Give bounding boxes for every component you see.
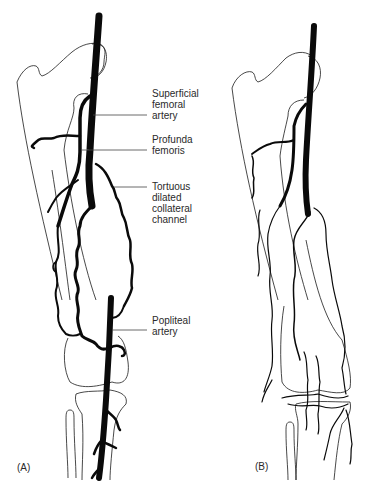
label-line: femoral [152, 99, 199, 110]
femoral-artery-diagram [0, 0, 367, 490]
profunda-branch-b1 [252, 140, 294, 154]
panel-b-drawing [232, 26, 352, 480]
label-line: Tortuous [152, 181, 192, 192]
label-line: dilated [152, 192, 192, 203]
popliteal-collateral-link-a [112, 306, 124, 318]
superficial-femoral-artery-a [89, 16, 99, 206]
panel-label-b: (B) [255, 461, 268, 472]
label-line: artery [152, 110, 199, 121]
tibia-b [295, 402, 350, 481]
label-popliteal-artery: Popliteal artery [152, 315, 190, 337]
label-line: Profunda [152, 134, 193, 145]
tibial-collateral-b [324, 408, 352, 464]
label-line: artery [152, 326, 190, 337]
panel-a-drawing [17, 16, 147, 480]
profunda-branch-b2 [252, 156, 254, 198]
label-line: collateral [152, 203, 192, 214]
collateral-b5 [304, 352, 308, 430]
femur-shaft-lateral-a [52, 170, 70, 300]
collateral-middle-a [75, 206, 108, 349]
label-line: Popliteal [152, 315, 190, 326]
collateral-b4 [258, 210, 260, 276]
fibula-a [66, 410, 76, 478]
femoral-condyle-b [281, 306, 351, 393]
profunda-femoris-a [58, 96, 90, 226]
label-profunda-femoris: Profunda femoris [152, 134, 193, 156]
label-superficial-femoral-artery: Superficial femoral artery [152, 88, 199, 121]
label-line: femoris [152, 145, 193, 156]
femur-outline-b [232, 52, 312, 300]
collateral-b1 [293, 212, 310, 360]
profunda-branch-a1 [32, 136, 80, 149]
fibula-b [286, 422, 296, 480]
label-line: Superficial [152, 88, 199, 99]
label-tortuous-collateral-channel: Tortuous dilated collateral channel [152, 181, 192, 225]
panel-label-a: (A) [17, 462, 30, 473]
tibial-branch-a1 [106, 410, 120, 430]
femur-shaft-lateral-b [306, 240, 342, 340]
popliteal-artery-a [99, 298, 111, 478]
genicular-network-b [282, 394, 348, 408]
tortuous-collateral-a [96, 164, 133, 306]
superficial-femoral-artery-b [306, 26, 314, 214]
label-line: channel [152, 214, 192, 225]
popliteal-knee-loop-a [110, 346, 125, 356]
